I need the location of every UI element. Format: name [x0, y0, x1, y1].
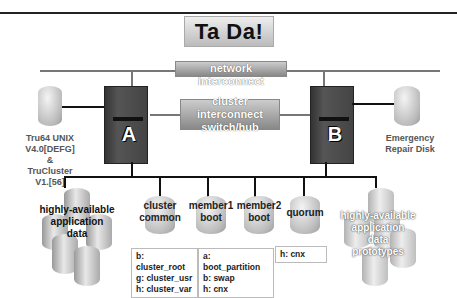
- left-disk-link: [62, 106, 104, 108]
- cluster-common-line: cluster: [135, 200, 185, 212]
- network-interconnect-label: network interconnect: [175, 61, 287, 77]
- bus-drop-prototypes: [375, 176, 377, 188]
- emergency-disk-icon: [394, 86, 420, 126]
- network-drop-a: [131, 72, 133, 86]
- right-disk-link: [352, 103, 394, 105]
- ha-prototypes-line: data: [328, 234, 428, 246]
- partition-entry: h: cnx: [203, 284, 269, 295]
- server-a-bus-drop: [131, 162, 133, 176]
- system-disk-icon: [38, 86, 62, 126]
- quorum-label: quorum: [280, 207, 330, 219]
- member2-boot-line: member2: [234, 200, 284, 212]
- system-disk-line: &: [10, 155, 90, 166]
- member-boot-partitions: a: boot_partition b: swap h: cnx: [198, 248, 274, 298]
- system-disk-line: Tru64 UNIX: [10, 133, 90, 144]
- partition-entry: h: cnx: [280, 249, 322, 260]
- ha-data-line: data: [28, 228, 126, 240]
- cylinder-icon: [74, 246, 100, 286]
- bus-drop-member1: [207, 176, 209, 198]
- member1-boot-line: member1: [186, 200, 236, 212]
- shared-storage-bus: [64, 176, 377, 178]
- ha-data-stack: highly-available application data: [36, 188, 118, 286]
- bus-drop-common: [159, 176, 161, 198]
- ha-prototypes-line: highly-available: [328, 210, 428, 222]
- emergency-disk-label: Emergency Repair Disk: [370, 133, 450, 155]
- bus-drop-quorum: [303, 176, 305, 198]
- cluster-switch-hub: cluster interconnect switch/hub: [180, 99, 280, 130]
- system-disk-line: V1.[56]: [10, 177, 90, 188]
- ha-data-line: application: [28, 216, 126, 228]
- cluster-common-line: common: [135, 212, 185, 224]
- member1-boot-line: boot: [186, 212, 236, 224]
- server-b-slot: [319, 117, 349, 121]
- system-disk-label: Tru64 UNIX V4.0[DEFG] & TruCluster V1.[5…: [10, 133, 90, 188]
- cluster-common-partitions: b: cluster_root g: cluster_usr h: cluste…: [131, 248, 198, 298]
- ha-prototypes-line: prototypes: [328, 246, 428, 258]
- server-a-slot: [113, 117, 143, 121]
- server-b-letter: B: [325, 123, 345, 145]
- server-b-bus-drop: [325, 162, 327, 176]
- server-a-letter: A: [119, 123, 139, 145]
- ha-prototypes-line: application: [328, 222, 428, 234]
- partition-entry: h: cluster_var: [136, 284, 193, 295]
- server-b: B: [310, 86, 354, 164]
- emergency-disk-line: Repair Disk: [370, 144, 450, 155]
- bus-drop-ha: [64, 176, 66, 188]
- partition-entry: b: swap: [203, 273, 269, 284]
- member2-boot-line: boot: [234, 212, 284, 224]
- system-disk-line: V4.0[DEFG]: [10, 144, 90, 155]
- network-drop-b: [323, 72, 325, 86]
- slide-title: Ta Da!: [184, 16, 274, 47]
- member1-boot-label: member1 boot: [186, 200, 236, 224]
- cluster-common-label: cluster common: [135, 200, 185, 224]
- cluster-switch-line1: cluster interconnect: [181, 95, 279, 121]
- quorum-partitions: h: cnx: [275, 246, 327, 263]
- partition-entry: a: boot_partition: [203, 251, 269, 273]
- ha-data-line: highly-available: [28, 204, 126, 216]
- partition-entry: b: cluster_root: [136, 251, 193, 273]
- server-a: A: [104, 86, 148, 164]
- emergency-disk-line: Emergency: [370, 133, 450, 144]
- ha-data-label: highly-available application data: [28, 204, 126, 240]
- bus-drop-member2: [254, 176, 256, 198]
- partition-entry: g: cluster_usr: [136, 273, 193, 284]
- member2-boot-label: member2 boot: [234, 200, 284, 224]
- ha-prototypes-label: highly-available application data protot…: [328, 210, 428, 258]
- top-rule: [0, 12, 457, 14]
- cluster-switch-line2: switch/hub: [181, 121, 279, 134]
